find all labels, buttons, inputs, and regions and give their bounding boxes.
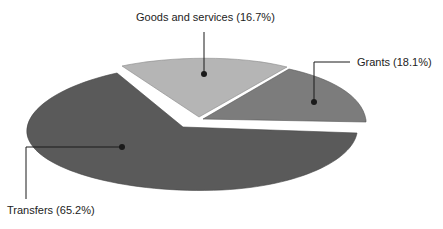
- leader-dot-transfers: [119, 144, 125, 150]
- leader-dot-grants: [311, 99, 317, 105]
- label-goods-and-services: Goods and services (16.7%): [136, 11, 275, 23]
- pie-chart: [0, 0, 443, 229]
- label-grants: Grants (18.1%): [357, 56, 432, 68]
- label-transfers: Transfers (65.2%): [7, 204, 95, 216]
- leader-dot-goods: [201, 71, 207, 77]
